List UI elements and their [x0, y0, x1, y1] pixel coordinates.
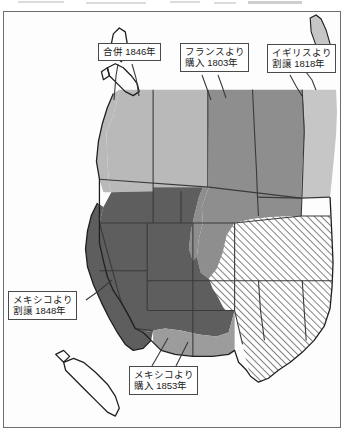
callout-line: 購入 1853年: [134, 380, 193, 391]
territory-oregon-annexation: [106, 90, 208, 193]
callout-gadsden-purchase-1853[interactable]: メキシコより 購入 1853年: [129, 366, 198, 395]
callout-british-cession-1818[interactable]: イギリスより 割譲 1818年: [267, 44, 336, 73]
callout-oregon-annexation-1846[interactable]: 合併 1846年: [98, 43, 161, 61]
callout-mexican-cession-1848[interactable]: メキシコより 割譲 1848年: [8, 291, 77, 320]
callout-line: 購入 1803年: [185, 57, 244, 68]
callout-line: 割譲 1848年: [13, 305, 72, 316]
callout-louisiana-purchase-1803[interactable]: フランスより 購入 1803年: [180, 43, 249, 72]
scan-artifact-strip: [0, 0, 344, 11]
territorial-acquisition-map: [4, 12, 340, 427]
callout-line: 割譲 1818年: [272, 58, 331, 69]
callout-line: フランスより: [185, 46, 244, 57]
callout-line: メキシコより: [13, 294, 72, 305]
callout-line: イギリスより: [272, 47, 331, 58]
callout-line: 合併 1846年: [103, 46, 156, 57]
callout-line: メキシコより: [134, 369, 193, 380]
